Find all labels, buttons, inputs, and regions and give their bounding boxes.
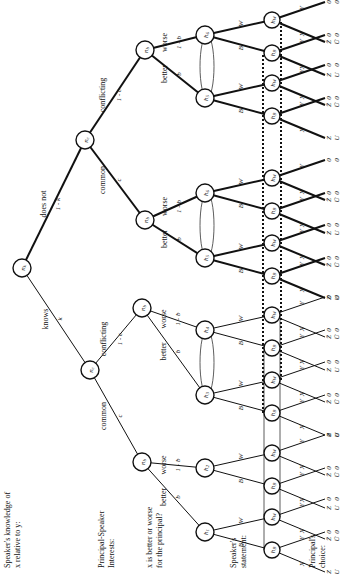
statement-branch-label: W <box>237 379 245 386</box>
interest-branch-label: conflicting <box>98 78 107 113</box>
principal-node-hB: hB <box>264 542 280 558</box>
terminal-payoff: Ū <box>333 262 341 268</box>
speaker-node-h5: h5 <box>196 249 214 267</box>
statement-branch-label: B <box>237 108 245 113</box>
speaker-node-h6: h6 <box>196 26 214 44</box>
principal-node-hB: hB <box>264 268 280 284</box>
choice-branch-label: X <box>298 391 306 397</box>
terminal-payoff: 0 <box>325 0 333 4</box>
choice-branch-label: X <box>298 561 306 567</box>
terminal-payoff: Z̄ <box>325 198 333 202</box>
quality-branch-label: better <box>159 488 168 507</box>
quality-branch-label: worse <box>160 197 169 217</box>
choice-branch-label: Y <box>298 38 306 43</box>
terminal-payoff: U <box>333 505 341 511</box>
knowledge-branch-label: does not <box>39 190 48 218</box>
terminal-payoff: Z̄ <box>325 103 333 107</box>
terminal-payoff: Z <box>325 506 333 510</box>
choice-branch-label: X <box>298 222 306 228</box>
choice-branch-label: X <box>298 287 306 293</box>
choice-branch-label: Y <box>298 261 306 266</box>
statement-branch-label: B <box>237 340 245 345</box>
statement-branch-label: B <box>237 405 245 410</box>
statement-branch-label: W <box>237 242 245 249</box>
choice-branch-label: Y <box>298 300 306 305</box>
choice-branch-label: Y <box>298 365 306 370</box>
game-tree-diagram: Speaker's knowledge ofx relative to y:Pr… <box>0 0 355 574</box>
principal-node-hW: hW <box>264 12 280 28</box>
choice-branch-label: Y <box>298 535 306 540</box>
choice-branch-label: X <box>298 94 306 100</box>
terminal-payoff: 0 <box>325 328 333 332</box>
quality-branch-prob: b <box>175 72 183 76</box>
terminal-payoff: 0 <box>325 393 333 397</box>
statement-branch-label: B <box>237 542 245 547</box>
terminal-payoff: Z̄ <box>325 335 333 339</box>
row-label-statement: Speaker's <box>229 538 238 568</box>
choice-branch-label: X <box>298 254 306 260</box>
terminal-payoff: 0 <box>333 158 341 162</box>
terminal-payoff: Ū <box>333 399 341 405</box>
terminal-payoff: 0 <box>333 497 341 501</box>
speaker-node-h4: h4 <box>196 321 214 339</box>
terminal-payoff: 0 <box>333 63 341 67</box>
interest-branch-prob: c <box>116 414 124 418</box>
choice-branch-label: Y <box>298 196 306 201</box>
quality-branch-prob: 1 - b <box>175 200 183 213</box>
statement-branch-label: B <box>237 203 245 208</box>
statement-branch-label: W <box>237 177 245 184</box>
row-label-statement: statement: <box>239 535 248 568</box>
terminal-payoff: 0 <box>333 530 341 534</box>
quality-node: nb <box>136 211 154 229</box>
row-label-choice: Principal's <box>308 535 317 568</box>
terminal-payoff: 0 <box>333 256 341 260</box>
choice-branch-label: Y <box>298 438 306 443</box>
terminal-payoff: 0 <box>333 0 341 4</box>
choice-branch-label: Y <box>298 5 306 10</box>
terminal-payoff: 0 <box>333 33 341 37</box>
speaker-node-h2: h2 <box>196 459 214 477</box>
choice-branch-label: Y <box>298 228 306 233</box>
terminal-payoff: 0 <box>333 393 341 397</box>
terminal-payoff: 0 <box>325 530 333 534</box>
terminal-payoff: 0 <box>333 223 341 227</box>
terminal-payoff: Z <box>325 433 333 437</box>
terminal-payoff: 0 <box>333 328 341 332</box>
terminal-payoff: 0 <box>325 63 333 67</box>
terminal-payoff: 0 <box>325 223 333 227</box>
terminal-payoff: Z̄ <box>325 473 333 477</box>
quality-branch-label: better <box>159 342 168 361</box>
terminal-payoff: U <box>333 230 341 236</box>
information-set-oval <box>200 193 214 258</box>
quality-branch-label: better <box>160 65 169 84</box>
choice-branch-label: Y <box>298 163 306 168</box>
choice-branch-label: X <box>298 31 306 37</box>
terminal-payoff: Z̄ <box>325 400 333 404</box>
quality-branch-prob: b <box>174 349 182 353</box>
terminal-payoff: 0 <box>325 466 333 470</box>
principal-node-hB: hB <box>264 478 280 494</box>
knowledge-branch-label: knows <box>41 309 50 330</box>
quality-branch-label: better <box>160 230 169 249</box>
principal-node-hW: hW <box>264 372 280 388</box>
terminal-payoff: U <box>333 72 341 78</box>
terminal-payoff: Z̄ <box>325 537 333 541</box>
choice-branch-label: X <box>298 464 306 470</box>
terminal-payoff: Ū <box>333 536 341 542</box>
principal-node-hB: hB <box>264 340 280 356</box>
terminal-payoff: Z <box>325 570 333 574</box>
interest-node: nc <box>81 361 99 379</box>
quality-node: nb <box>133 299 151 317</box>
statement-branch-label: W <box>237 452 245 459</box>
knowledge-branch-prob: 1 - k <box>54 197 62 210</box>
quality-branch-prob: 1 - b <box>175 36 183 49</box>
quality-branch-prob: 1 - b <box>174 312 182 325</box>
terminal-payoff: 0 <box>325 497 333 501</box>
quality-node: nb <box>136 41 154 59</box>
principal-node-hB: hB <box>264 203 280 219</box>
terminal-payoff: U <box>333 432 341 438</box>
principal-node-hW: hW <box>264 170 280 186</box>
terminal-payoff: 0 <box>325 158 333 162</box>
row-label-interests: Interests: <box>107 539 116 568</box>
principal-node-hB: hB <box>264 45 280 61</box>
